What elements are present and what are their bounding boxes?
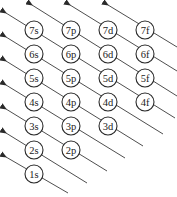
- orbital-label: 7f: [141, 25, 150, 36]
- orbital-label: 6d: [103, 49, 114, 60]
- orbital-label: 6p: [66, 49, 77, 60]
- orbital-label: 3p: [66, 121, 77, 132]
- orbital-7f: 7f: [136, 21, 154, 39]
- orbital-label: 4p: [66, 97, 77, 108]
- orbital-4p: 4p: [62, 93, 80, 111]
- orbital-4s: 4s: [25, 93, 43, 111]
- orbital-label: 4f: [141, 97, 150, 108]
- aufbau-diagram: 7s7p7d7f6s6p6d6f5s5p5d5f4s4p4d4f3s3p3d2s…: [0, 0, 177, 197]
- orbital-5s: 5s: [25, 69, 43, 87]
- orbital-label: 1s: [29, 169, 38, 180]
- orbital-label: 7d: [103, 25, 114, 36]
- orbital-label: 3s: [29, 121, 38, 132]
- orbital-6f: 6f: [136, 45, 154, 63]
- orbital-6p: 6p: [62, 45, 80, 63]
- orbital-label: 7s: [29, 25, 38, 36]
- orbital-7s: 7s: [25, 21, 43, 39]
- orbital-label: 5s: [29, 73, 38, 84]
- orbital-label: 2p: [66, 145, 77, 156]
- orbital-label: 6s: [29, 49, 38, 60]
- orbital-6s: 6s: [25, 45, 43, 63]
- orbital-label: 5p: [66, 73, 77, 84]
- orbital-label: 2s: [29, 145, 38, 156]
- arrow-icon: [6, 109, 107, 171]
- orbital-6d: 6d: [99, 45, 117, 63]
- orbital-label: 4d: [103, 97, 114, 108]
- orbital-5d: 5d: [99, 69, 117, 87]
- orbital-label: 3d: [103, 121, 114, 132]
- orbital-label: 5f: [141, 73, 150, 84]
- orbital-7p: 7p: [62, 21, 80, 39]
- aufbau-diagram-canvas: 7s7p7d7f6s6p6d6f5s5p5d5f4s4p4d4f3s3p3d2s…: [0, 0, 177, 197]
- orbital-5p: 5p: [62, 69, 80, 87]
- orbital-7d: 7d: [99, 21, 117, 39]
- orbital-label: 7p: [66, 25, 77, 36]
- orbital-label: 4s: [29, 97, 38, 108]
- orbital-4f: 4f: [136, 93, 154, 111]
- orbital-3s: 3s: [25, 117, 43, 135]
- orbital-3p: 3p: [62, 117, 80, 135]
- orbital-2s: 2s: [25, 141, 43, 159]
- orbital-4d: 4d: [99, 93, 117, 111]
- orbital-3d: 3d: [99, 117, 117, 135]
- orbital-2p: 2p: [62, 141, 80, 159]
- orbital-5f: 5f: [136, 69, 154, 87]
- orbital-label: 6f: [141, 49, 150, 60]
- orbital-1s: 1s: [25, 165, 43, 183]
- orbital-label: 5d: [103, 73, 114, 84]
